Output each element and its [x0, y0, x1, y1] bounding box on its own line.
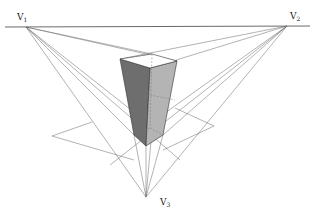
- v1-label: V1: [16, 12, 27, 23]
- v3-label: V3: [159, 197, 171, 208]
- perspective-diagram: V1 V2 V3: [0, 0, 313, 213]
- box-left-face: [120, 59, 150, 146]
- horizon-line: [5, 26, 310, 27]
- v2-label: V2: [289, 11, 301, 22]
